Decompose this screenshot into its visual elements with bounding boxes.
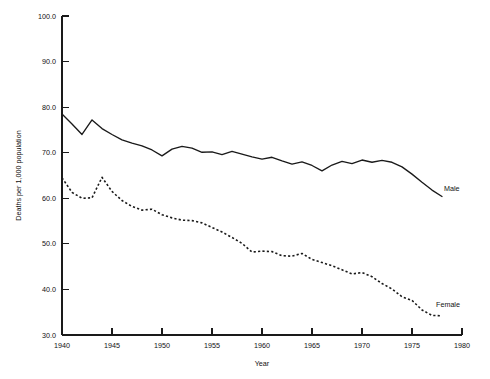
- series-label-male: Male: [444, 184, 460, 193]
- x-tick-label: 1945: [104, 341, 120, 350]
- y-tick-label: 60.0: [42, 194, 56, 203]
- series-labels-group: MaleFemale: [436, 184, 460, 309]
- x-axis-title: Year: [255, 359, 270, 368]
- x-tick-label: 1965: [304, 341, 320, 350]
- y-tick-label: 70.0: [42, 148, 56, 157]
- y-tick-label: 90.0: [42, 57, 56, 66]
- x-tick-label: 1980: [454, 341, 470, 350]
- y-tick-label: 50.0: [42, 239, 56, 248]
- x-tick-label: 1975: [404, 341, 420, 350]
- line-chart: 30.040.050.060.070.080.090.0100.0 194019…: [0, 0, 490, 379]
- x-tick-label: 1960: [254, 341, 270, 350]
- series-line-male: [62, 114, 442, 196]
- y-tick-label: 30.0: [42, 331, 56, 340]
- series-group: [62, 114, 442, 316]
- y-tick-label: 80.0: [42, 103, 56, 112]
- y-axis-title: Deaths per 1,000 population: [14, 130, 23, 220]
- x-tick-label: 1950: [154, 341, 170, 350]
- chart-container: 30.040.050.060.070.080.090.0100.0 194019…: [0, 0, 490, 379]
- y-tick-label: 100.0: [38, 12, 56, 21]
- x-tick-label: 1940: [54, 341, 70, 350]
- y-axis-ticks: 30.040.050.060.070.080.090.0100.0: [38, 12, 69, 340]
- series-label-female: Female: [436, 300, 460, 309]
- y-tick-label: 40.0: [42, 285, 56, 294]
- x-tick-label: 1970: [354, 341, 370, 350]
- x-tick-label: 1955: [204, 341, 220, 350]
- x-axis-ticks: 194019451950195519601965197019751980: [54, 328, 470, 350]
- series-line-female: [62, 177, 442, 316]
